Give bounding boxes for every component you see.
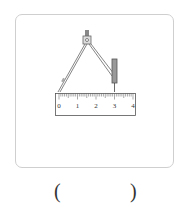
compass-ruler-diagram: 01234 [0,0,188,213]
compass [58,30,117,92]
svg-text:0: 0 [57,102,61,110]
right-paren: ) [130,180,137,203]
svg-text:2: 2 [94,102,98,110]
ruler: 01234 [56,94,136,116]
left-paren: ( [54,180,61,203]
svg-text:1: 1 [76,102,80,110]
svg-text:4: 4 [131,102,135,110]
svg-text:3: 3 [113,102,117,110]
